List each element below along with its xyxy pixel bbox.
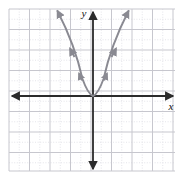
x-axis-label: x (168, 100, 174, 112)
y-axis-label: y (81, 7, 87, 19)
plot-background (9, 9, 175, 171)
parabola-coordinate-graph: y x (0, 0, 182, 179)
graph-canvas: y x (0, 0, 182, 179)
